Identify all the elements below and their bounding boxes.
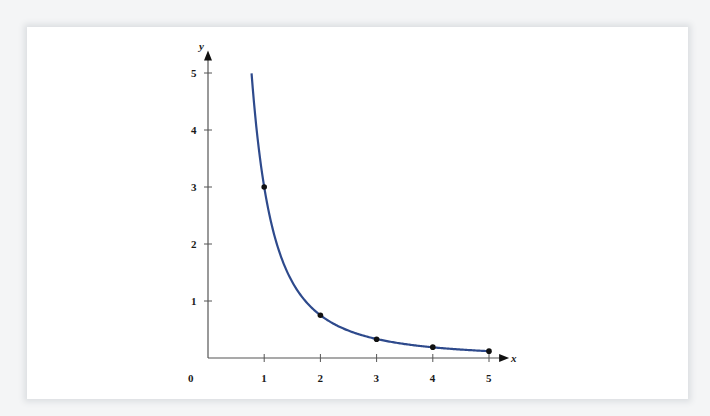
data-point xyxy=(261,184,267,190)
x-tick-label: 4 xyxy=(430,372,436,384)
x-axis-label: x xyxy=(510,352,517,364)
y-tick-label: 2 xyxy=(191,238,197,250)
y-tick-label: 5 xyxy=(191,67,197,79)
y-tick-label: 1 xyxy=(191,295,197,307)
data-point xyxy=(430,344,436,350)
origin-label: 0 xyxy=(188,372,194,384)
data-point xyxy=(374,336,380,342)
data-point xyxy=(486,348,492,354)
y-axis-label: y xyxy=(197,40,204,52)
data-points xyxy=(261,184,491,354)
x-axis-arrow-icon xyxy=(499,354,509,362)
x-tick-label: 2 xyxy=(317,372,323,384)
y-axis-arrow-icon xyxy=(204,50,212,60)
curve-line xyxy=(252,73,489,351)
y-tick-label: 4 xyxy=(191,124,197,136)
chart-plot: yx01234512345 xyxy=(0,0,710,416)
x-tick-label: 1 xyxy=(261,372,267,384)
x-tick-label: 3 xyxy=(374,372,380,384)
data-point xyxy=(318,312,324,318)
y-tick-label: 3 xyxy=(191,181,197,193)
x-tick-label: 5 xyxy=(486,372,492,384)
